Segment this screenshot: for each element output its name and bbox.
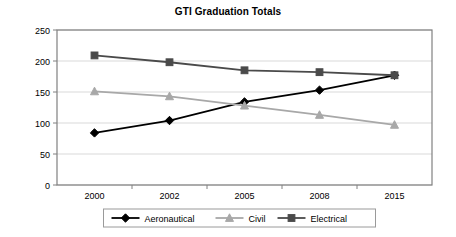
x-tick-label: 2002	[159, 191, 179, 201]
x-tick-label: 2008	[309, 191, 329, 201]
x-tick-label: 2000	[84, 191, 104, 201]
square-marker	[91, 52, 98, 59]
y-tick-label: 200	[35, 57, 50, 67]
legend-label: Civil	[249, 214, 266, 224]
x-tick-label: 2005	[234, 191, 254, 201]
legend-label: Electrical	[311, 214, 348, 224]
x-tick-label: 2015	[384, 191, 404, 201]
square-marker	[316, 69, 323, 76]
y-tick-label: 100	[35, 119, 50, 129]
data-series-group	[90, 52, 398, 137]
square-marker	[241, 67, 248, 74]
series-electrical	[91, 52, 398, 79]
square-marker	[166, 59, 173, 66]
y-tick-label: 50	[40, 150, 50, 160]
chart-container: GTI Graduation Totals 050100150200250 20…	[0, 0, 456, 237]
line-chart-plot: 050100150200250 20002002200520082015 Aer…	[0, 0, 456, 237]
square-marker	[391, 72, 398, 79]
square-marker	[288, 215, 295, 222]
x-tick-labels-group: 20002002200520082015	[84, 191, 404, 201]
chart-legend: AeronauticalCivilElectrical	[104, 209, 376, 227]
diamond-marker	[315, 86, 323, 94]
y-tick-label: 0	[45, 181, 50, 191]
legend-label: Aeronautical	[145, 214, 195, 224]
y-tick-label: 150	[35, 88, 50, 98]
y-tick-label: 250	[35, 26, 50, 36]
diamond-marker	[90, 129, 98, 137]
y-tick-labels-group: 050100150200250	[35, 26, 50, 191]
series-civil	[91, 87, 399, 128]
